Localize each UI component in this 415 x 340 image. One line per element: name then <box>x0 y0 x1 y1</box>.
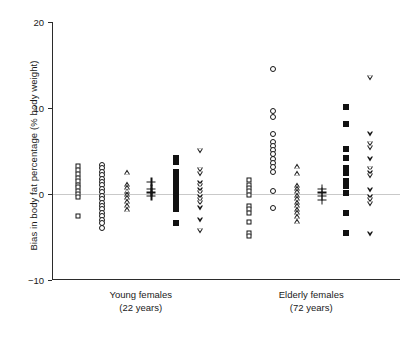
data-point-open-up-triangle <box>124 207 130 212</box>
group-name: Young females <box>109 289 172 302</box>
group-sublabel: (22 years) <box>109 302 172 315</box>
data-point-open-down-triangle <box>367 156 373 161</box>
data-point-open-circle <box>270 114 276 120</box>
group-label-1: Elderly females(72 years) <box>279 289 344 314</box>
data-point-filled-square <box>343 190 349 196</box>
data-point-open-square <box>246 219 251 224</box>
data-point-open-square <box>76 214 81 219</box>
data-point-open-down-triangle <box>367 131 373 136</box>
data-point-plus <box>317 196 326 205</box>
data-point-open-down-triangle <box>367 173 373 178</box>
y-tick-label: 20 <box>18 17 44 28</box>
data-point-open-up-triangle <box>294 171 300 176</box>
data-point-open-down-triangle <box>367 202 373 207</box>
data-point-open-square <box>246 210 251 215</box>
group-name: Elderly females <box>279 289 344 302</box>
data-point-open-circle <box>270 131 276 137</box>
y-tick-mark <box>48 108 52 109</box>
data-point-filled-square <box>343 183 349 189</box>
data-point-filled-square <box>343 155 349 161</box>
data-point-open-up-triangle <box>294 218 300 223</box>
y-tick-mark <box>48 194 52 195</box>
x-axis-spine <box>52 279 400 280</box>
data-point-open-circle <box>270 66 276 72</box>
data-point-open-square <box>246 192 251 197</box>
data-point-open-down-triangle <box>197 228 203 233</box>
y-tick-label: −10 <box>18 275 44 286</box>
data-point-filled-square <box>173 206 179 212</box>
data-point-open-square <box>246 234 251 239</box>
data-point-filled-square <box>343 146 349 152</box>
group-sublabel: (72 years) <box>279 302 344 315</box>
plot-area <box>52 22 400 280</box>
data-point-filled-square <box>343 170 349 176</box>
data-point-open-down-triangle <box>367 75 373 80</box>
y-tick-mark <box>48 280 52 281</box>
data-point-open-down-triangle <box>367 146 373 151</box>
data-point-open-circle <box>270 169 276 175</box>
y-tick-label: 0 <box>18 189 44 200</box>
data-point-open-down-triangle <box>367 231 373 236</box>
data-point-open-up-triangle <box>294 163 300 168</box>
data-point-filled-square <box>343 210 349 216</box>
group-label-0: Young females(22 years) <box>109 289 172 314</box>
data-point-filled-square <box>343 121 349 127</box>
y-axis-spine <box>52 22 53 280</box>
data-point-open-square <box>76 195 81 200</box>
data-point-open-down-triangle <box>197 217 203 222</box>
data-point-filled-square <box>173 159 179 165</box>
data-point-open-circle <box>99 225 105 231</box>
data-point-open-down-triangle <box>197 172 203 177</box>
data-point-filled-square <box>343 104 349 110</box>
data-point-open-up-triangle <box>124 169 130 174</box>
data-point-open-down-triangle <box>197 205 203 210</box>
data-point-open-circle <box>270 205 276 211</box>
data-point-open-circle <box>270 188 276 194</box>
y-tick-label: 10 <box>18 103 44 114</box>
data-point-open-down-triangle <box>197 149 203 154</box>
data-point-plus <box>147 191 156 200</box>
data-point-filled-square <box>343 230 349 236</box>
y-axis-tick-labels: −1001020 <box>18 0 44 340</box>
data-point-open-down-triangle <box>367 187 373 192</box>
y-tick-mark <box>48 22 52 23</box>
data-point-filled-square <box>173 220 179 226</box>
scatter-plot-figure: Bias in body fat percentage (% body weig… <box>0 0 415 340</box>
